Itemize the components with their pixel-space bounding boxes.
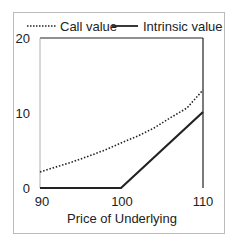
intrinsic-value-line bbox=[40, 112, 203, 188]
plot-area bbox=[40, 38, 203, 188]
legend: Call value Intrinsic value bbox=[27, 19, 222, 34]
x-axis: 90 100 110 Price of Underlying bbox=[35, 194, 214, 226]
chart: Call value Intrinsic value 20 10 0 90 10… bbox=[0, 0, 235, 243]
y-tick-20: 20 bbox=[16, 31, 30, 46]
legend-intrinsic-value: Intrinsic value bbox=[143, 19, 222, 34]
y-tick-10: 10 bbox=[16, 106, 30, 121]
x-tick-100: 100 bbox=[111, 194, 133, 209]
legend-call-value: Call value bbox=[60, 19, 117, 34]
call-value-line bbox=[40, 90, 203, 172]
x-tick-110: 110 bbox=[193, 194, 214, 209]
x-axis-label: Price of Underlying bbox=[67, 211, 177, 226]
x-tick-90: 90 bbox=[35, 194, 49, 209]
y-axis: 20 10 0 bbox=[16, 31, 30, 196]
y-tick-0: 0 bbox=[23, 181, 30, 196]
